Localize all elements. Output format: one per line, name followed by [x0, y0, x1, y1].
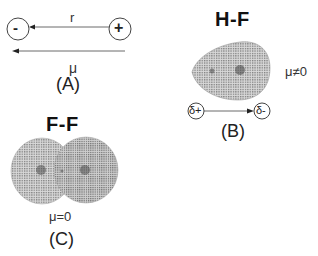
dipole-arrowhead: [12, 49, 19, 54]
bond-center: [61, 170, 64, 173]
panel-a-caption: (A): [56, 74, 80, 95]
negative-charge-label: -: [13, 19, 18, 36]
h-nucleus: [210, 69, 215, 74]
f-left-nucleus: [36, 165, 46, 175]
panel-c-caption: (C): [49, 229, 74, 250]
positive-charge-label: +: [114, 19, 123, 37]
f-right-nucleus: [80, 165, 90, 175]
distance-label: r: [70, 10, 74, 25]
f-nucleus: [235, 65, 245, 75]
ff-dipole-value: μ=0: [49, 209, 71, 224]
hf-dipole-value: μ≠0: [285, 64, 307, 79]
panel-b-caption: (B): [221, 121, 245, 142]
partial-positive-label: δ+: [189, 104, 202, 116]
bond-dipole-arrowhead: [247, 109, 254, 114]
panel-c: [11, 137, 118, 204]
ff-title: F-F: [46, 113, 79, 136]
panel-a: [7, 18, 131, 54]
distance-arrowhead: [29, 25, 35, 30]
hf-title: H-F: [215, 8, 250, 31]
hf-electron-cloud: [192, 42, 270, 100]
negative-charge-circle: [7, 18, 29, 40]
partial-negative-label: δ-: [256, 104, 266, 116]
